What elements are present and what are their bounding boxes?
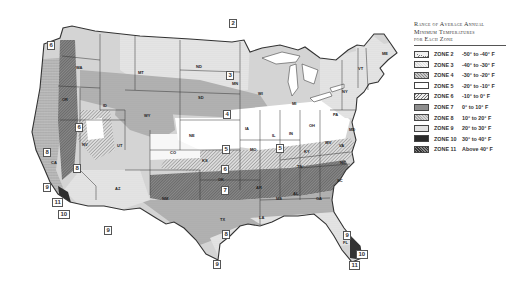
zone-2-swatch-icon [414, 51, 429, 58]
state-abbrev-label: OK [218, 177, 224, 182]
legend-row-zone-5: ZONE 5-20° to -10° F [414, 81, 522, 92]
state-abbrev-label: MN [232, 81, 238, 86]
zone-number-label: 6 [221, 165, 229, 174]
state-abbrev-label: TN [297, 164, 302, 169]
zone-number-label: 8 [222, 230, 230, 239]
state-abbrev-label: NY [342, 89, 348, 94]
zone-range: -30° to -20° F [462, 72, 495, 78]
zone-name: ZONE 9 [434, 125, 462, 131]
state-abbrev-label: WV [325, 140, 331, 145]
state-abbrev-label: NV [82, 142, 88, 147]
legend: Range of Average Annual Minimum Temperat… [414, 20, 522, 155]
zone-10-swatch-icon [414, 135, 429, 142]
zone-range: -50° to -40° F [462, 51, 495, 57]
zone-range: Above 40° F [462, 146, 493, 152]
legend-title-line1: Range of Average Annual [414, 20, 522, 28]
zone-number-label: 10 [356, 250, 368, 259]
zone-7-swatch-icon [414, 104, 429, 111]
legend-row-zone-3: ZONE 3-40° to -30° F [414, 59, 522, 70]
zone-number-label: 10 [58, 210, 70, 219]
zone-range: -20° to -10° F [462, 83, 495, 89]
zone-name: ZONE 7 [434, 104, 462, 110]
zone-number-label: 5 [222, 145, 230, 154]
state-abbrev-label: UT [117, 143, 122, 148]
zone-range: -10° to 0° F [462, 93, 490, 99]
zone-number-label: 11 [349, 261, 360, 270]
zone-name: ZONE 3 [434, 62, 462, 68]
state-abbrev-label: TX [220, 217, 225, 222]
state-abbrev-label: PA [333, 112, 338, 117]
legend-title-line2: Minimum Temperatures [414, 28, 522, 36]
legend-title-line3: for Each Zone [414, 35, 522, 43]
zone-name: ZONE 11 [434, 146, 462, 152]
state-abbrev-label: ID [103, 103, 107, 108]
zone-range: 30° to 40° F [462, 136, 491, 142]
state-abbrev-label: AR [256, 185, 262, 190]
legend-row-zone-10: ZONE 1030° to 40° F [414, 134, 522, 145]
state-abbrev-label: IA [245, 126, 249, 131]
state-abbrev-label: KY [304, 149, 310, 154]
zone-name: ZONE 4 [434, 72, 462, 78]
legend-row-zone-7: ZONE 70° to 10° F [414, 102, 522, 113]
zone-number-label: 7 [221, 186, 229, 195]
state-abbrev-label: ND [196, 64, 202, 69]
zone-range: 10° to 20° F [462, 115, 491, 121]
zone-8-swatch-icon [414, 114, 429, 121]
zone-5-swatch-icon [414, 82, 429, 89]
zone-11-swatch-icon [414, 146, 429, 153]
zone-number-label: 9 [43, 183, 51, 192]
zone-number-label: 4 [223, 110, 231, 119]
state-abbrev-label: CO [170, 150, 176, 155]
zone-6-swatch-icon [414, 93, 429, 100]
legend-row-zone-9: ZONE 920° to 30° F [414, 123, 522, 134]
state-abbrev-label: MD [349, 127, 355, 132]
state-abbrev-label: VT [358, 66, 363, 71]
zone-number-label: 8 [43, 148, 51, 157]
state-abbrev-label: IL [272, 133, 276, 138]
legend-row-zone-4: ZONE 4-30° to -20° F [414, 70, 522, 81]
state-abbrev-label: NC [340, 160, 346, 165]
legend-rows: ZONE 2-50° to -40° F ZONE 3-40° to -30° … [414, 49, 522, 155]
state-abbrev-label: MT [138, 70, 144, 75]
state-abbrev-label: WY [144, 113, 150, 118]
zone-3-swatch-icon [414, 61, 429, 68]
state-abbrev-label: KS [202, 158, 208, 163]
state-abbrev-label: FL [343, 240, 348, 245]
legend-row-zone-6: ZONE 6-10° to 0° F [414, 91, 522, 102]
zone-range: -40° to -30° F [462, 62, 495, 68]
state-abbrev-label: NE [189, 133, 195, 138]
legend-row-zone-11: ZONE 11Above 40° F [414, 144, 522, 155]
state-abbrev-label: WA [76, 65, 82, 70]
legend-divider [414, 45, 506, 46]
zone-name: ZONE 10 [434, 136, 462, 142]
state-abbrev-label: OR [62, 97, 68, 102]
zone-number-label: 2 [229, 19, 237, 28]
zone-4-swatch-icon [414, 72, 429, 79]
zone-name: ZONE 6 [434, 93, 462, 99]
zone-number-label: 9 [213, 260, 221, 269]
zone-number-label: 9 [343, 231, 351, 240]
state-abbrev-label: ME [382, 51, 388, 56]
zone-name: ZONE 5 [434, 83, 462, 89]
zone-number-label: 3 [226, 71, 234, 80]
state-abbrev-label: CA [51, 160, 57, 165]
state-abbrev-label: LA [259, 215, 264, 220]
zone-9-swatch-icon [414, 125, 429, 132]
zone-number-label: 11 [52, 198, 63, 207]
state-abbrev-label: AZ [115, 186, 120, 191]
state-abbrev-label: GA [316, 196, 322, 201]
zone-name: ZONE 2 [434, 51, 462, 57]
legend-row-zone-8: ZONE 810° to 20° F [414, 112, 522, 123]
state-abbrev-label: WI [258, 91, 263, 96]
zone-number-label: 8 [73, 164, 81, 173]
legend-row-zone-2: ZONE 2-50° to -40° F [414, 49, 522, 60]
zone-range: 0° to 10° F [462, 104, 488, 110]
state-abbrev-label: VA [339, 143, 344, 148]
zone-name: ZONE 8 [434, 115, 462, 121]
zone-number-label: 6 [47, 41, 55, 50]
state-abbrev-label: OH [309, 123, 315, 128]
zone-number-label: 5 [276, 144, 284, 153]
zone-range: 20° to 30° F [462, 125, 491, 131]
state-abbrev-label: AL [293, 191, 298, 196]
state-abbrev-label: IN [289, 131, 293, 136]
